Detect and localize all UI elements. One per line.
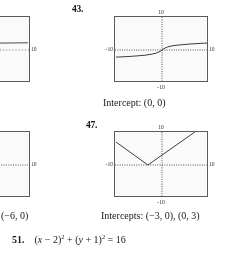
equation-51-term2-base: (y + 1) bbox=[75, 234, 102, 245]
equation-51-plus: + bbox=[67, 234, 73, 245]
equation-line-51: 51. (x − 2)2 + (y + 1)2 = 16 bbox=[12, 234, 126, 245]
answer-intercept-43: Intercept: (0, 0) bbox=[103, 97, 165, 108]
graph-41-partial bbox=[0, 17, 29, 81]
curve-47 bbox=[116, 132, 195, 165]
equation-51-term2-exponent: 2 bbox=[102, 233, 105, 240]
axis-label-top-43: 10 bbox=[158, 9, 164, 15]
graph-43 bbox=[115, 17, 207, 81]
axis-label-bottom-47: -10 bbox=[157, 199, 164, 205]
axis-label-top-47: 10 bbox=[158, 124, 164, 130]
axis-label-right-47: 10 bbox=[209, 161, 215, 167]
axis-label-right-43: 10 bbox=[209, 46, 215, 52]
equation-51-rhs: 16 bbox=[116, 234, 126, 245]
plot-area-47 bbox=[115, 132, 207, 196]
axis-label-left-47: -10 bbox=[106, 161, 113, 167]
equation-51-term1-exponent: 2 bbox=[61, 233, 64, 240]
axis-label-bottom-43: -10 bbox=[157, 84, 164, 90]
graph-47 bbox=[115, 132, 207, 196]
axis-label-right-41: 10 bbox=[31, 46, 37, 52]
axis-label-right-45: 10 bbox=[31, 161, 37, 167]
plot-area-45-partial bbox=[0, 132, 29, 196]
answer-key-page: 10 43. 10 10 -10 -10 Intercept: (0, 0) bbox=[0, 0, 227, 255]
calculator-window-47: 10 10 -10 -10 bbox=[114, 131, 208, 197]
answer-intercepts-45-partial: , (−6, 0) bbox=[0, 210, 28, 221]
calculator-window-41-partial: 10 bbox=[0, 16, 30, 82]
axis-label-left-43: -10 bbox=[106, 46, 113, 52]
problem-number-51: 51. bbox=[12, 234, 25, 245]
calculator-window-43: 10 10 -10 -10 bbox=[114, 16, 208, 82]
calculator-window-45-partial: 10 bbox=[0, 131, 30, 197]
equation-51-equals: = bbox=[108, 234, 114, 245]
graph-45-partial bbox=[0, 132, 29, 196]
answer-intercepts-47: Intercepts: (−3, 0), (0, 3) bbox=[101, 210, 200, 221]
equation-51-term1-base: (x − 2) bbox=[35, 234, 62, 245]
plot-area-43 bbox=[115, 17, 207, 81]
curve-fragment bbox=[0, 43, 28, 44]
problem-number-43: 43. bbox=[72, 4, 83, 14]
problem-number-47: 47. bbox=[86, 120, 97, 130]
plot-area-41-partial bbox=[0, 17, 29, 81]
